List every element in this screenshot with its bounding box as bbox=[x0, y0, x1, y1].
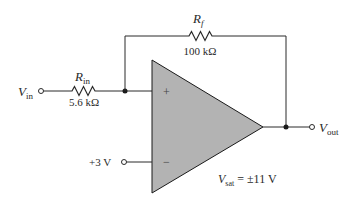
vout-label: Vout bbox=[319, 120, 339, 137]
rin-label: Rin bbox=[74, 69, 90, 86]
rin-resistor-icon bbox=[70, 87, 97, 96]
rf-resistor-icon bbox=[187, 32, 214, 41]
vref-label: +3 V bbox=[89, 156, 111, 168]
junction-dot bbox=[284, 125, 289, 130]
vin-terminal bbox=[39, 89, 44, 94]
plus-input-label: + bbox=[163, 85, 170, 99]
vin-label: Vin bbox=[18, 84, 33, 101]
vref-terminal bbox=[122, 160, 127, 165]
rin-value: 5.6 kΩ bbox=[69, 96, 99, 108]
minus-input-label: − bbox=[163, 155, 170, 169]
circuit-diagram: + − Vin Rin 5.6 kΩ Rf 100 kΩ Vout +3 V V… bbox=[0, 0, 355, 210]
rf-label: Rf bbox=[192, 11, 205, 28]
vsat-annotation: Vsat = ±11 V bbox=[218, 172, 277, 188]
rf-value: 100 kΩ bbox=[184, 45, 217, 57]
vout-terminal bbox=[310, 125, 315, 130]
